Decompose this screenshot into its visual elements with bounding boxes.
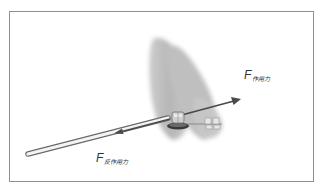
force-symbol: F [244,68,251,82]
force-subscript: 作用力 [252,75,270,82]
force-subscript: 反作用力 [104,158,128,165]
force-diagram [0,0,323,190]
reaction-force-label: F反作用力 [96,148,128,166]
force-symbol: F [96,151,103,165]
action-force-label: F作用力 [244,65,270,83]
